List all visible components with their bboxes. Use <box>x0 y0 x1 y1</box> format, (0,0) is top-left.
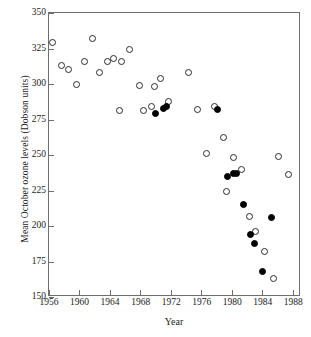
y-tick-mark <box>49 13 54 14</box>
x-tick-label: 1964 <box>101 298 120 308</box>
y-tick-mark <box>49 155 54 156</box>
data-point <box>110 55 117 62</box>
y-tick-label: 200 <box>32 221 46 231</box>
x-tick-label: 1956 <box>40 298 59 308</box>
y-tick-mark <box>49 191 54 192</box>
data-point <box>251 240 258 247</box>
y-tick-label: 225 <box>32 186 46 196</box>
x-tick-mark <box>262 290 263 295</box>
data-point <box>194 106 201 113</box>
data-point <box>140 107 147 114</box>
data-point <box>151 83 158 90</box>
data-point <box>247 231 254 238</box>
data-point <box>49 39 56 46</box>
data-point <box>230 154 237 161</box>
data-point <box>136 82 143 89</box>
y-tick-label: 300 <box>32 79 46 89</box>
data-point <box>163 103 170 110</box>
x-tick-label: 1972 <box>162 298 181 308</box>
x-tick-mark <box>49 290 50 295</box>
x-tick-mark <box>293 290 294 295</box>
y-tick-label: 175 <box>32 257 46 267</box>
y-axis-title: Mean October ozone levels (Dobson units) <box>20 39 30 279</box>
y-tick-mark <box>49 84 54 85</box>
data-point <box>259 268 266 275</box>
x-tick-mark <box>110 290 111 295</box>
y-tick-mark <box>49 226 54 227</box>
x-tick-label: 1960 <box>70 298 89 308</box>
data-point <box>73 81 80 88</box>
data-point <box>268 214 275 221</box>
x-tick-label: 1980 <box>223 298 242 308</box>
y-tick-label: 350 <box>32 8 46 18</box>
x-tick-mark <box>79 290 80 295</box>
data-point <box>240 201 247 208</box>
x-tick-mark <box>232 290 233 295</box>
plot-area: 150175200225250275300325350 195619601964… <box>48 12 300 296</box>
data-point <box>246 213 253 220</box>
data-point <box>285 171 292 178</box>
data-point <box>270 275 277 282</box>
data-point <box>89 35 96 42</box>
data-point <box>261 248 268 255</box>
data-point <box>148 103 155 110</box>
x-tick-label: 1988 <box>284 298 303 308</box>
data-point <box>157 75 164 82</box>
x-tick-mark <box>171 290 172 295</box>
x-tick-mark <box>201 290 202 295</box>
y-tick-mark <box>49 262 54 263</box>
data-point <box>118 58 125 65</box>
data-point <box>203 150 210 157</box>
y-tick-mark <box>49 120 54 121</box>
y-tick-mark <box>49 49 54 50</box>
x-tick-label: 1968 <box>131 298 150 308</box>
x-tick-mark <box>140 290 141 295</box>
data-point <box>126 46 133 53</box>
data-point <box>116 107 123 114</box>
data-point <box>275 153 282 160</box>
data-point <box>65 66 72 73</box>
y-tick-label: 275 <box>32 115 46 125</box>
data-point <box>233 170 240 177</box>
scatter-chart-figure: Mean October ozone levels (Dobson units)… <box>0 0 311 337</box>
y-tick-label: 250 <box>32 150 46 160</box>
data-point <box>223 188 230 195</box>
data-point <box>152 110 159 117</box>
x-axis-title: Year <box>48 316 300 327</box>
data-point <box>220 134 227 141</box>
data-point <box>214 106 221 113</box>
data-point <box>185 69 192 76</box>
y-tick-label: 325 <box>32 44 46 54</box>
data-point <box>81 58 88 65</box>
x-tick-label: 1984 <box>253 298 272 308</box>
x-tick-label: 1976 <box>192 298 211 308</box>
data-point <box>96 69 103 76</box>
